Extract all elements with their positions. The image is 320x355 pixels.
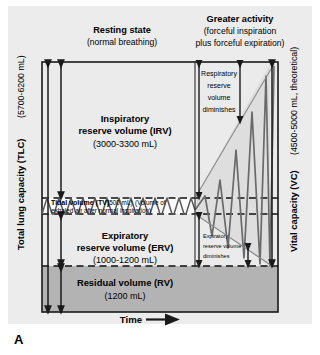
tidal-volume-desc-2: exhaled air after normal inspiration) xyxy=(51,207,151,215)
erv-label-line2: reserve volume (ERV) xyxy=(77,242,174,253)
spirogram-svg: Resting state (normal breathing) Greater… xyxy=(0,0,320,355)
rv-value: (1200 mL) xyxy=(104,291,145,301)
right-axis-label-value: (4500-5000 mL, theoretical) xyxy=(289,47,299,155)
greater-activity-subtitle-1: (forceful inspiration xyxy=(204,26,277,36)
right-axis-label-bold: Vital capacity (VC) xyxy=(288,170,299,252)
erv-value: (1000-1200 mL) xyxy=(93,255,157,265)
tidal-volume-value: (500 mL) xyxy=(107,199,133,207)
time-axis-label: Time xyxy=(120,314,142,325)
expiratory-reserve-annotation-2: reserve volume xyxy=(203,243,241,249)
tidal-volume-desc-1: (Volume of xyxy=(135,199,166,207)
panel-letter: A xyxy=(14,332,24,347)
respiratory-reserve-annotation-3: volume xyxy=(208,94,231,101)
respiratory-reserve-annotation-2: reserve xyxy=(207,82,230,89)
greater-activity-subtitle-2: plus forceful expiration) xyxy=(196,38,285,48)
respiratory-reserve-annotation-1: Respiratory xyxy=(201,70,237,78)
irv-value: (3000-3300 mL) xyxy=(93,139,157,149)
resting-state-subtitle: (normal breathing) xyxy=(87,37,157,47)
irv-label-line2: reserve volume (IRV) xyxy=(78,125,171,136)
respiratory-reserve-annotation-4: diminishes xyxy=(202,106,236,113)
resting-state-title: Resting state xyxy=(93,25,151,35)
tidal-volume-label: Tidal volume (TV) xyxy=(51,199,109,207)
irv-label-line1: Inspiratory xyxy=(101,113,150,124)
expiratory-reserve-annotation-3: diminishes xyxy=(203,253,230,259)
left-axis-label-value: (5700-6200 mL) xyxy=(16,55,26,118)
expiratory-reserve-annotation-1: Expiratory xyxy=(203,233,228,239)
left-axis-label-bold: Total lung capacity (TLC) xyxy=(15,139,26,250)
rv-label: Residual volume (RV) xyxy=(77,277,173,288)
greater-activity-title: Greater activity xyxy=(207,14,275,24)
spirogram-figure: Resting state (normal breathing) Greater… xyxy=(0,0,320,355)
residual-volume-fill xyxy=(42,266,278,312)
erv-label-line1: Expiratory xyxy=(102,230,149,241)
